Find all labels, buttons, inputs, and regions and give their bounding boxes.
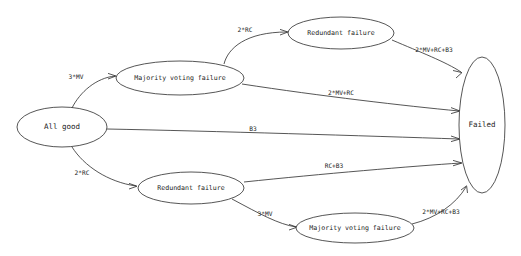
- edge-label: 2*RC: [238, 26, 253, 33]
- edge-label: 3*MV: [69, 73, 84, 80]
- edge-majority-voting-failure-top-to-redundant-failure-top: 2*RC: [224, 26, 288, 64]
- edge-majority-voting-failure-bottom-to-failed: 2*MV+RC+B3: [412, 186, 468, 224]
- edge-path: [412, 187, 466, 224]
- arrowhead-icon: [129, 183, 137, 189]
- node-label: Majority voting failure: [134, 74, 225, 82]
- node-majority-voting-failure-top[interactable]: Majority voting failure: [116, 61, 244, 95]
- node-all-good[interactable]: All good: [17, 107, 107, 147]
- edge-label: 3*MV: [258, 210, 273, 217]
- edge-path: [224, 32, 287, 64]
- node-label: Redundant failure: [157, 184, 225, 192]
- edge-path: [72, 76, 115, 108]
- node-redundant-failure-bottom[interactable]: Redundant failure: [138, 172, 244, 204]
- node-label: Redundant failure: [307, 29, 375, 37]
- edge-redundant-failure-bottom-to-majority-voting-failure-bottom: 3*MV: [232, 199, 297, 230]
- edge-majority-voting-failure-top-to-failed: 2*MV+RC: [242, 84, 460, 114]
- node-redundant-failure-top[interactable]: Redundant failure: [288, 17, 394, 49]
- edge-allgood-to-failed: B3: [107, 125, 460, 142]
- node-label: All good: [44, 122, 80, 131]
- edge-label: RC+B3: [325, 162, 344, 169]
- edge-redundant-failure-bottom-to-failed: RC+B3: [244, 160, 462, 182]
- state-diagram-canvas: 3*MV 2*RC 2*MV+RC+B3 2*MV+RC B3: [0, 0, 521, 256]
- edge-allgood-to-majority-voting-failure-top: 3*MV: [69, 73, 116, 108]
- edge-label: 2*MV+RC+B3: [422, 208, 460, 215]
- edge-label: 2*MV+RC+B3: [415, 46, 453, 53]
- node-label: Failed: [468, 120, 495, 129]
- edge-allgood-to-redundant-failure-bottom: 2*RC: [72, 147, 137, 189]
- edge-path: [244, 163, 461, 182]
- edge-path: [107, 129, 459, 139]
- edge-label: 2*MV+RC: [328, 89, 354, 96]
- edge-label: 2*RC: [75, 169, 90, 176]
- node-label: Majority voting failure: [309, 224, 400, 232]
- edge-path: [72, 147, 136, 186]
- edge-label: B3: [249, 125, 257, 132]
- state-diagram-container: 3*MV 2*RC 2*MV+RC+B3 2*MV+RC B3: [0, 0, 521, 256]
- node-failed[interactable]: Failed: [459, 57, 505, 193]
- edge-redundant-failure-top-to-failed: 2*MV+RC+B3: [392, 40, 462, 78]
- node-majority-voting-failure-bottom[interactable]: Majority voting failure: [296, 213, 414, 243]
